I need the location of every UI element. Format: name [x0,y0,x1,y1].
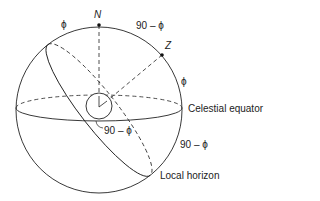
label-phi-right: ϕ [181,77,187,87]
label-zenith: Z [165,41,171,51]
label-90-minus-phi-center: 90 – ϕ [104,126,132,136]
label-90-minus-phi-right: 90 – ϕ [180,140,208,150]
zenith-point [160,53,164,57]
label-local-horizon: Local horizon [160,171,219,181]
label-phi-top-left: ϕ [61,20,67,30]
label-celestial-equator: Celestial equator [188,104,263,114]
zenith-axis [101,55,162,106]
label-north-pole: N [94,10,101,20]
angle-arc [96,121,103,128]
north-point [97,23,101,27]
label-90-minus-phi-top: 90 – ϕ [136,21,164,31]
